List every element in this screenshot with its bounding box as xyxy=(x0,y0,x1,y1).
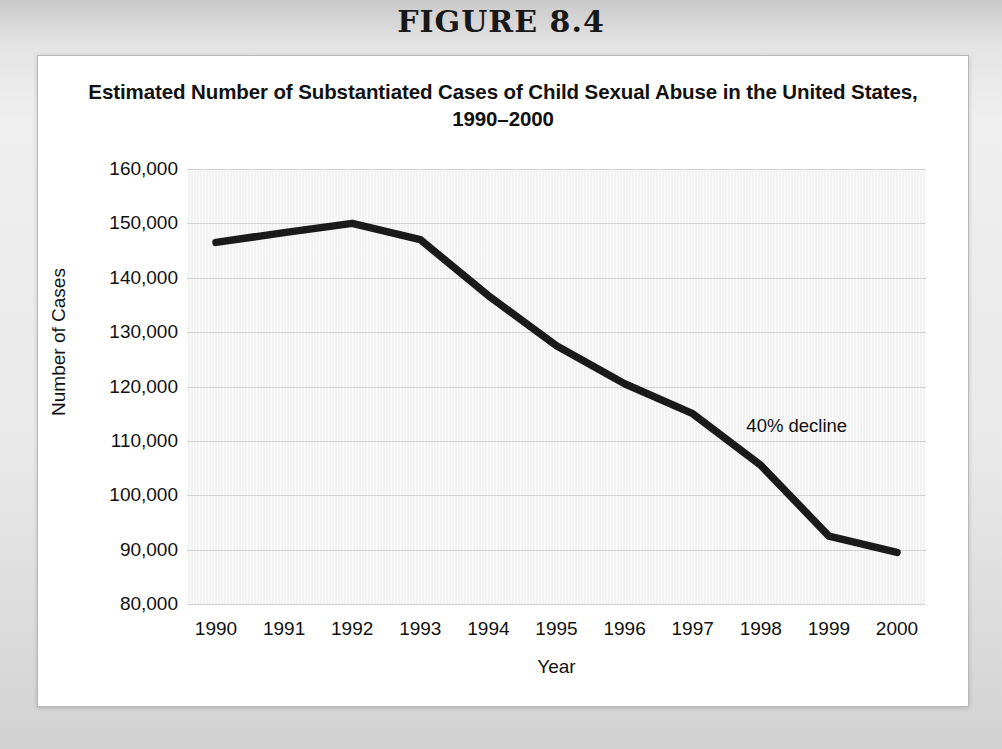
x-axis-tick-label: 1999 xyxy=(808,618,850,640)
x-axis-tick-label: 1992 xyxy=(331,618,373,640)
y-axis-title: Number of Cases xyxy=(48,192,70,492)
y-axis-tick-label: 90,000 xyxy=(120,539,178,561)
figure-card: Estimated Number of Substantiated Cases … xyxy=(37,55,969,707)
decline-annotation: 40% decline xyxy=(746,415,847,437)
x-axis-tick-label: 2000 xyxy=(876,618,918,640)
x-axis-tick-label: 1994 xyxy=(467,618,509,640)
x-axis-title: Year xyxy=(187,656,926,678)
y-axis-tick-label: 80,000 xyxy=(120,593,178,615)
plot-area: 40% decline xyxy=(187,169,926,604)
gridline xyxy=(187,604,926,605)
y-axis-tick-label: 150,000 xyxy=(109,212,178,234)
chart-plot-wrapper: 40% decline 160,000150,000140,000130,000… xyxy=(38,56,968,706)
x-axis-tick-labels: 1990199119921993199419951996199719981999… xyxy=(187,618,926,648)
x-axis-tick-label: 1997 xyxy=(672,618,714,640)
y-axis-tick-label: 110,000 xyxy=(111,430,178,452)
y-axis-tick-label: 160,000 xyxy=(109,158,178,180)
x-axis-tick-label: 1998 xyxy=(740,618,782,640)
x-axis-tick-label: 1993 xyxy=(399,618,441,640)
data-series-line xyxy=(187,169,926,604)
x-axis-tick-label: 1991 xyxy=(263,618,305,640)
y-axis-tick-label: 130,000 xyxy=(109,321,178,343)
y-axis-tick-label: 100,000 xyxy=(109,484,178,506)
x-axis-tick-label: 1995 xyxy=(535,618,577,640)
figure-heading: FIGURE 8.4 xyxy=(0,4,1002,39)
x-axis-tick-label: 1990 xyxy=(195,618,237,640)
x-axis-tick-label: 1996 xyxy=(603,618,645,640)
y-axis-tick-label: 140,000 xyxy=(109,267,178,289)
y-axis-tick-label: 120,000 xyxy=(109,376,178,398)
